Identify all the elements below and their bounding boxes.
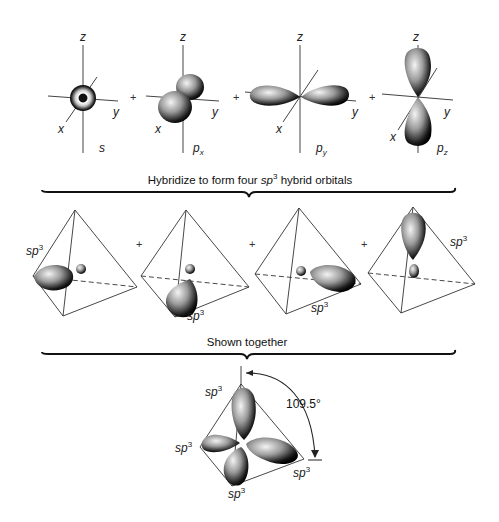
axis-label-y: y [351, 105, 359, 119]
px-orbital-figure: z y x px [146, 30, 219, 157]
axis-label-z: z [412, 30, 419, 44]
hybrid-lobe-large [34, 265, 73, 290]
sp3-label: sp3 [311, 300, 329, 315]
hybrid-lobe-small [409, 264, 419, 278]
axis-label-z: z [179, 30, 186, 44]
pz-orbital-figure: z y x pz [382, 30, 453, 157]
sp3-label: sp3 [187, 308, 205, 323]
sp3-hybrid-2: sp3 [141, 210, 249, 323]
py-orbital-figure: z y x py [245, 30, 359, 157]
brace-hybridize [42, 188, 455, 197]
axis-label-z: z [79, 30, 86, 44]
axis-label-y: y [443, 105, 451, 119]
brace-shown-together [42, 350, 455, 359]
hybrid-lobe-small [296, 266, 306, 276]
sp3-hybrid-1: sp3 [26, 210, 137, 316]
pz-lobe-bottom [405, 97, 432, 146]
axis-label-y: y [112, 105, 120, 119]
axis-label-x: x [275, 122, 283, 136]
plus-sign: + [369, 91, 375, 103]
axis-label-y: y [211, 105, 219, 119]
s-orbital-figure: z y x s [48, 30, 120, 155]
orbital-label-px: px [192, 141, 205, 157]
bond-angle-label: 109.5° [286, 397, 321, 411]
axis-label-x: x [154, 122, 162, 136]
sp3-hybridization-diagram: z y x s + z y x px + z y x py + z y x [0, 0, 499, 522]
plus-sign: + [233, 91, 239, 103]
s-orbital-sphere [70, 85, 96, 111]
sp3-label: sp3 [26, 243, 44, 258]
orbital-label-s: s [99, 141, 105, 155]
sp3-combined-figure: 109.5° sp3 sp3 sp3 sp3 [175, 366, 322, 501]
sp3-label-left: sp3 [175, 440, 193, 455]
sp3-label: sp3 [450, 234, 468, 249]
sp3-label-right: sp3 [293, 465, 311, 480]
combined-lobe-right [246, 438, 298, 464]
px-lobe-front [158, 91, 192, 123]
combined-lobe-top [232, 388, 256, 440]
plus-sign: + [249, 238, 255, 250]
sp3-label-top: sp3 [205, 384, 223, 399]
hybrid-lobe-large [401, 213, 425, 260]
plus-sign: + [130, 91, 136, 103]
axis-label-x: x [57, 122, 65, 136]
axis-label-x: x [389, 130, 397, 144]
sp3-hybrid-4: sp3 [368, 207, 475, 313]
pz-lobe-top [405, 48, 431, 97]
hybrid-lobe-small [185, 264, 195, 274]
py-lobe-left [250, 86, 300, 106]
plus-sign: + [136, 238, 142, 250]
combined-lobe-left [202, 435, 240, 452]
orbital-label-py: py [315, 141, 328, 157]
sp3-hybrid-3: sp3 [255, 208, 361, 315]
combined-lobe-bottom [224, 447, 249, 486]
shown-together-caption: Shown together [207, 336, 288, 348]
sp3-label-bottom: sp3 [228, 486, 246, 501]
orbital-label-pz: pz [436, 141, 448, 157]
axis-label-z: z [296, 30, 303, 44]
hybrid-lobe-small [76, 264, 86, 274]
plus-sign: + [361, 238, 367, 250]
hybridize-caption: Hybridize to form four sp3 hybrid orbita… [148, 172, 353, 186]
py-lobe-right [301, 85, 349, 105]
